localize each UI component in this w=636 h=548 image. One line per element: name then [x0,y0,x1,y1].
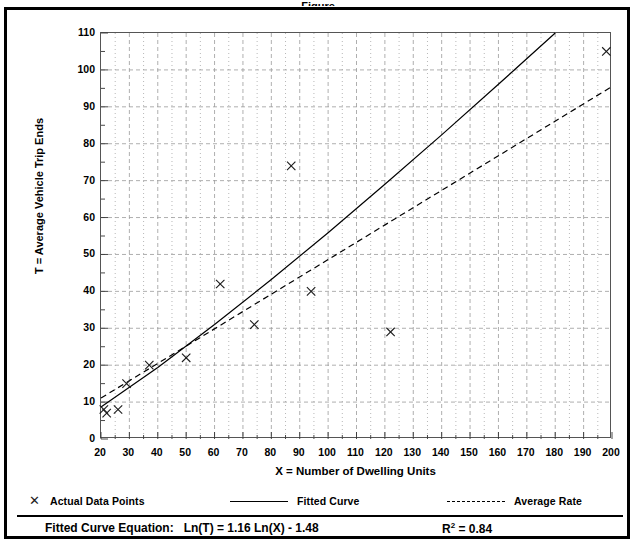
plot-canvas [101,33,612,439]
legend-label: Average Rate [514,495,582,507]
y-tick-label: 0 [65,433,95,443]
y-axis-tick-labels: 0102030405060708090100110 [62,32,95,438]
legend-label: Actual Data Points [50,495,145,507]
chart-page: Figure T = Average Vehicle Trip Ends 010… [0,0,636,548]
r-squared-value: = 0.84 [458,522,492,536]
data-point-marker [602,47,610,55]
y-tick-label: 80 [65,138,95,148]
y-tick-label: 10 [65,396,95,406]
legend-label: Fitted Curve [297,495,359,507]
chart-frame: T = Average Vehicle Trip Ends 0102030405… [4,7,630,539]
footer-divider [17,515,623,517]
legend-item-average-rate: Average Rate [447,492,582,510]
legend-item-fitted-curve: Fitted Curve [230,492,359,510]
equation-value: Ln(T) = 1.16 Ln(X) - 1.48 [184,521,319,535]
x-marker-icon: ✕ [27,495,41,507]
y-tick-label: 70 [65,175,95,185]
r-squared-exponent: 2 [451,521,455,530]
y-tick-label: 100 [65,64,95,74]
x-tick-label: 200 [594,446,628,458]
solid-line-icon [230,495,288,507]
y-tick-label: 60 [65,212,95,222]
chart-legend: ✕ Actual Data Points Fitted Curve Averag… [27,492,613,510]
chart-footer: Fitted Curve Equation: Ln(T) = 1.16 Ln(X… [17,519,623,539]
data-point-marker [386,328,394,336]
data-point-marker [102,409,110,417]
data-point-marker [182,354,190,362]
data-point-marker [216,280,224,288]
equation-label: Fitted Curve Equation: [45,521,174,535]
cut-off-title: Figure [0,0,636,6]
y-tick-label: 50 [65,248,95,258]
y-tick-label: 20 [65,359,95,369]
y-tick-label: 40 [65,285,95,295]
x-axis-tick-labels: 2030405060708090100110120130140150160170… [100,446,611,462]
y-tick-label: 110 [65,27,95,37]
y-tick-label: 30 [65,322,95,332]
legend-item-actual-data-points: ✕ Actual Data Points [27,492,145,510]
major-gridlines [101,33,612,439]
r-squared: R2 = 0.84 [442,521,492,536]
y-tick-label: 90 [65,101,95,111]
data-point-markers [100,47,611,417]
data-point-marker [250,320,258,328]
fitted-curve-equation: Fitted Curve Equation: Ln(T) = 1.16 Ln(X… [45,521,319,535]
r-squared-symbol: R [442,522,451,536]
dashed-line-icon [447,495,505,507]
plot-area [100,32,611,438]
y-axis-title: T = Average Vehicle Trip Ends [33,86,45,306]
data-point-marker [287,162,295,170]
x-axis-title: X = Number of Dwelling Units [100,465,611,477]
